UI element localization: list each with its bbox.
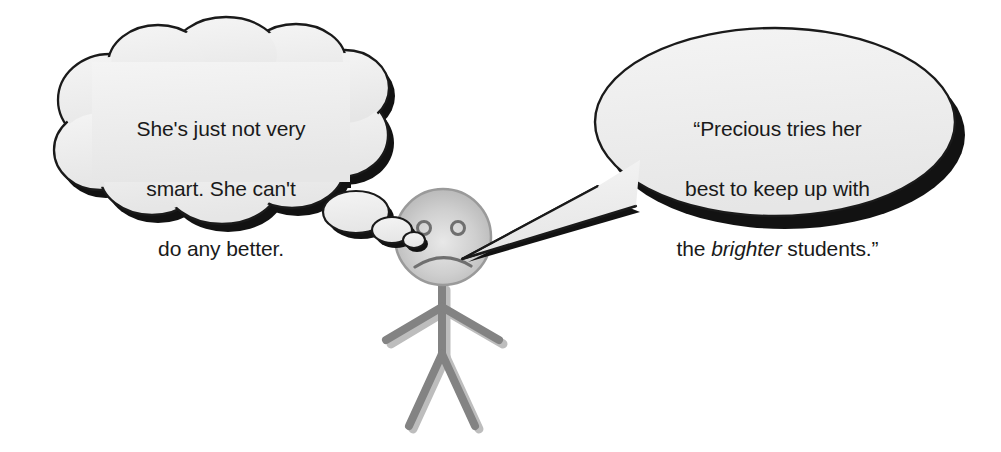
cartoon-artwork <box>0 0 1001 452</box>
thought-bubble <box>54 17 428 252</box>
right-leg <box>442 354 475 426</box>
left-leg <box>409 354 442 426</box>
speech-bubble <box>462 28 965 262</box>
cartoon-scene: She's just not very smart. She can't do … <box>0 0 1001 452</box>
speech-bubble-body <box>595 28 955 216</box>
right-arm <box>442 307 499 340</box>
limbs <box>386 284 499 426</box>
thought-dot-3 <box>403 232 425 248</box>
